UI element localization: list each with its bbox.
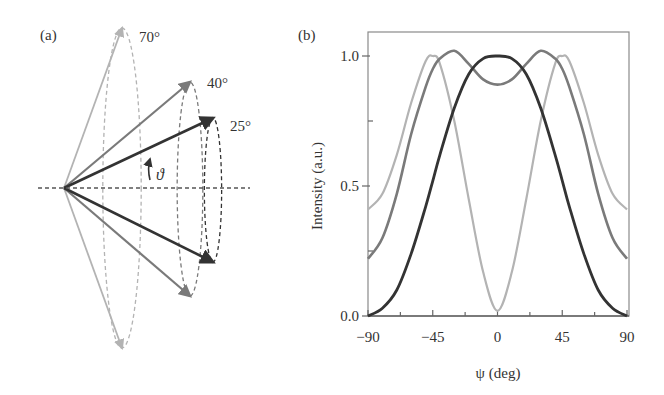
- panel-a-label: (a): [40, 27, 57, 44]
- figure: (a) 70°40°25° ϑ (b) −90−45045900.00.51.0…: [0, 0, 664, 395]
- cone-ellipse-40: [177, 82, 203, 296]
- angle-label-40: 40°: [207, 75, 228, 91]
- angle-label-70: 70°: [139, 29, 160, 45]
- cone-ellipse-25: [204, 118, 221, 262]
- panel-b-label: (b): [298, 27, 316, 44]
- theta-arrow-icon: [149, 159, 151, 180]
- x-tick-label: 90: [620, 329, 635, 345]
- x-axis-label: ψ (deg): [476, 365, 521, 382]
- x-tick-label: −90: [356, 329, 379, 345]
- panel-b: (b) −90−45045900.00.51.0 Intensity (a.u.…: [298, 27, 635, 382]
- theta-label: ϑ: [156, 166, 165, 183]
- curve-70deg: [368, 55, 627, 310]
- intensity-curves: [368, 51, 627, 316]
- curve-40deg: [368, 51, 627, 259]
- y-tick-label: 0.5: [340, 178, 359, 194]
- y-tick-label: 1.0: [340, 48, 359, 64]
- axis-ticks: −90−45045900.00.51.0: [340, 48, 634, 345]
- x-tick-label: 45: [555, 329, 570, 345]
- curve-25deg: [368, 56, 627, 316]
- y-tick-label: 0.0: [340, 308, 359, 324]
- panel-a: (a) 70°40°25° ϑ: [38, 27, 251, 348]
- angle-label-25: 25°: [230, 118, 251, 134]
- x-tick-label: −45: [421, 329, 444, 345]
- y-axis-label: Intensity (a.u.): [309, 142, 326, 230]
- x-tick-label: 0: [494, 329, 502, 345]
